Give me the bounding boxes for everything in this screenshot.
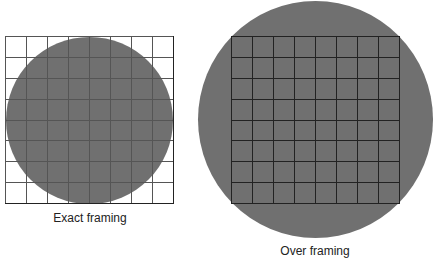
- grid-cell: [152, 99, 173, 120]
- grid-cell: [131, 182, 152, 203]
- grid-cell: [378, 57, 399, 78]
- grid-cell: [110, 36, 131, 57]
- grid-cell: [68, 36, 89, 57]
- grid-cell: [231, 120, 252, 141]
- grid-cell: [231, 36, 252, 57]
- grid-cell: [110, 99, 131, 120]
- grid-cell: [5, 140, 26, 161]
- grid-cell: [47, 78, 68, 99]
- grid-cell: [357, 120, 378, 141]
- grid-cell: [273, 161, 294, 182]
- grid-cell: [68, 161, 89, 182]
- grid-cell: [110, 161, 131, 182]
- caption-exact-framing: Exact framing: [53, 211, 126, 225]
- grid-cell: [89, 99, 110, 120]
- grid-cell: [336, 36, 357, 57]
- grid-cell: [252, 78, 273, 99]
- grid-cell: [47, 161, 68, 182]
- grid-cell: [47, 140, 68, 161]
- grid-cell: [357, 161, 378, 182]
- grid-cell: [315, 36, 336, 57]
- grid-cell: [68, 120, 89, 141]
- grid-cell: [5, 99, 26, 120]
- grid-cell: [47, 57, 68, 78]
- grid-cell: [378, 161, 399, 182]
- grid-cell: [89, 36, 110, 57]
- grid-cell: [5, 161, 26, 182]
- grid-cell: [315, 57, 336, 78]
- grid-cell: [294, 120, 315, 141]
- grid-cell: [89, 161, 110, 182]
- grid-cell: [252, 120, 273, 141]
- grid-cell: [357, 182, 378, 203]
- grid-cell: [152, 182, 173, 203]
- grid-cell: [336, 78, 357, 99]
- caption-over-framing: Over framing: [280, 244, 349, 258]
- grid-cell: [315, 78, 336, 99]
- grid-cell: [315, 120, 336, 141]
- grid-cell: [5, 36, 26, 57]
- grid-cell: [378, 36, 399, 57]
- grid-cell: [336, 57, 357, 78]
- grid-cell: [231, 140, 252, 161]
- grid-cell: [68, 78, 89, 99]
- grid-cell: [152, 36, 173, 57]
- grid-cell: [231, 182, 252, 203]
- grid-cell: [231, 161, 252, 182]
- grid-cell: [273, 182, 294, 203]
- grid-cell: [294, 140, 315, 161]
- grid-cell: [273, 99, 294, 120]
- grid-cell: [357, 78, 378, 99]
- grid-cell: [273, 57, 294, 78]
- grid-cell: [68, 57, 89, 78]
- grid-cell: [294, 57, 315, 78]
- grid-cell: [336, 120, 357, 141]
- grid-cell: [152, 161, 173, 182]
- grid-cell: [231, 78, 252, 99]
- grid-cell: [336, 140, 357, 161]
- grid-cell: [252, 140, 273, 161]
- grid-cell: [68, 140, 89, 161]
- grid-cell: [252, 36, 273, 57]
- grid-cell: [336, 161, 357, 182]
- grid-cell: [273, 140, 294, 161]
- grid-cell: [252, 182, 273, 203]
- grid-cell: [26, 78, 47, 99]
- grid-cell: [89, 120, 110, 141]
- grid-cell: [152, 120, 173, 141]
- grid-cell: [273, 120, 294, 141]
- grid-cell: [315, 140, 336, 161]
- grid-cell: [89, 57, 110, 78]
- grid-cell: [89, 140, 110, 161]
- grid-cell: [252, 99, 273, 120]
- grid-cell: [26, 182, 47, 203]
- grid-cell: [131, 140, 152, 161]
- grid-cell: [294, 99, 315, 120]
- grid-cell: [110, 78, 131, 99]
- grid-cell: [315, 161, 336, 182]
- grid-cell: [315, 182, 336, 203]
- pixel-grid-over: [231, 36, 400, 204]
- grid-cell: [26, 36, 47, 57]
- grid-cell: [152, 78, 173, 99]
- grid-cell: [152, 140, 173, 161]
- grid-cell: [231, 57, 252, 78]
- grid-cell: [89, 182, 110, 203]
- grid-cell: [131, 57, 152, 78]
- grid-cell: [294, 78, 315, 99]
- grid-cell: [294, 161, 315, 182]
- grid-cell: [378, 78, 399, 99]
- grid-cell: [336, 99, 357, 120]
- grid-cell: [26, 99, 47, 120]
- grid-cell: [5, 120, 26, 141]
- grid-cell: [231, 99, 252, 120]
- grid-cell: [5, 182, 26, 203]
- grid-cell: [273, 36, 294, 57]
- grid-cell: [357, 99, 378, 120]
- grid-cell: [131, 36, 152, 57]
- grid-cell: [357, 36, 378, 57]
- grid-cell: [273, 78, 294, 99]
- grid-cell: [68, 99, 89, 120]
- grid-cell: [131, 120, 152, 141]
- grid-cell: [357, 140, 378, 161]
